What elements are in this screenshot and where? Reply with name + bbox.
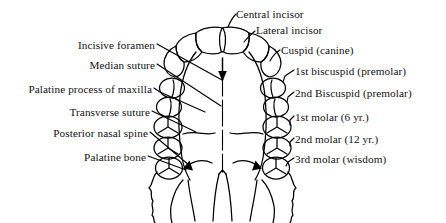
label-posterior-nasal-spine: Posterior nasal spine bbox=[53, 127, 148, 139]
label-transverse-suture: Transverse suture bbox=[69, 106, 150, 118]
label-palatine-bone: Palatine bone bbox=[84, 151, 146, 163]
label-palatine-process-of-maxilla: Palatine process of maxilla bbox=[28, 83, 152, 95]
label-first-molar: 1st molar (6 yr.) bbox=[295, 111, 369, 123]
label-lateral-incisor: Lateral incisor bbox=[256, 24, 322, 36]
label-third-molar-wisdom: 3rd molar (wisdom) bbox=[295, 153, 386, 165]
tooth-first-molar-left bbox=[154, 116, 182, 138]
tooth-third-molar-right bbox=[263, 157, 290, 179]
label-median-suture: Median suture bbox=[89, 59, 155, 71]
posterior-palate-arches bbox=[188, 170, 257, 221]
tooth-cuspid-left bbox=[164, 46, 184, 77]
leader-lines-left bbox=[148, 44, 222, 170]
label-cuspid-canine: Cuspid (canine) bbox=[281, 44, 354, 56]
tooth-second-molar-right bbox=[263, 137, 291, 159]
label-second-molar: 2nd molar (12 yr.) bbox=[295, 133, 378, 145]
tooth-second-biscuspid-right bbox=[264, 97, 289, 117]
label-first-biscuspid-premolar: 1st biscuspid (premolar) bbox=[295, 65, 406, 77]
palate-diagram-artwork bbox=[0, 0, 446, 223]
palate-anatomy-figure: Incisive foramen Median suture Palatine … bbox=[0, 0, 446, 223]
label-central-incisor: Central incisor bbox=[236, 8, 304, 20]
label-second-biscuspid-premolar: 2nd Biscuspid (premolar) bbox=[295, 87, 412, 99]
maxilla-outer-edge bbox=[149, 172, 296, 223]
tooth-first-molar-right bbox=[263, 116, 291, 138]
label-incisive-foramen: Incisive foramen bbox=[78, 39, 155, 51]
